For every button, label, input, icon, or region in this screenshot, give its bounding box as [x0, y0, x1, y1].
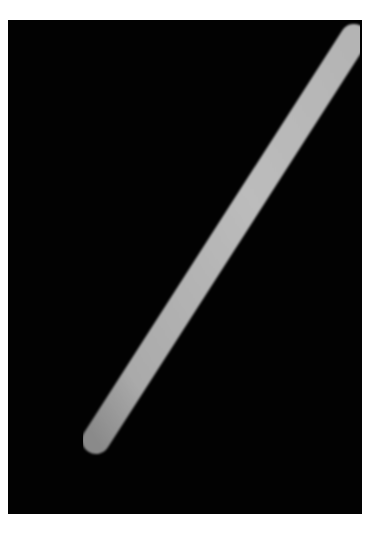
caption-text	[140, 518, 340, 532]
rod-shape	[96, 38, 354, 440]
photo-panel	[8, 20, 362, 514]
rod-illustration	[8, 20, 362, 514]
